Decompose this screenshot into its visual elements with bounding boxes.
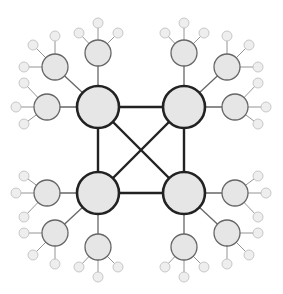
leaf-node bbox=[74, 262, 84, 272]
leaf-node bbox=[19, 212, 29, 222]
leaf-node bbox=[113, 262, 123, 272]
leaf-node bbox=[199, 262, 209, 272]
leaf-node bbox=[28, 40, 38, 50]
leaf-node bbox=[11, 188, 21, 198]
leaf-node bbox=[253, 62, 263, 72]
leaf-node bbox=[28, 250, 38, 260]
satellite-node bbox=[222, 180, 248, 206]
leaf-node bbox=[160, 28, 170, 38]
leaf-node bbox=[11, 102, 21, 112]
hub-node bbox=[77, 172, 119, 214]
leaf-node bbox=[19, 228, 29, 238]
satellite-node bbox=[214, 220, 240, 246]
satellite-node bbox=[34, 94, 60, 120]
hub-node bbox=[77, 86, 119, 128]
leaf-node bbox=[244, 250, 254, 260]
leaf-node bbox=[19, 78, 29, 88]
leaf-node bbox=[253, 78, 263, 88]
leaf-node bbox=[253, 171, 263, 181]
satellite-node bbox=[34, 180, 60, 206]
leaf-node bbox=[222, 31, 232, 41]
hub-node bbox=[163, 172, 205, 214]
satellite-node bbox=[171, 40, 197, 66]
leaf-node bbox=[93, 272, 103, 282]
leaf-node bbox=[253, 119, 263, 129]
leaf-node bbox=[113, 28, 123, 38]
leaf-node bbox=[253, 228, 263, 238]
satellite-node bbox=[85, 40, 111, 66]
leaf-node bbox=[74, 28, 84, 38]
leaf-node bbox=[19, 62, 29, 72]
satellite-node bbox=[222, 94, 248, 120]
satellite-node bbox=[85, 234, 111, 260]
satellite-node bbox=[42, 54, 68, 80]
leaf-node bbox=[50, 31, 60, 41]
leaf-node bbox=[160, 262, 170, 272]
leaf-node bbox=[261, 188, 271, 198]
leaf-node bbox=[179, 272, 189, 282]
leaf-node bbox=[261, 102, 271, 112]
satellite-node bbox=[42, 220, 68, 246]
leaf-node bbox=[19, 119, 29, 129]
leaf-node bbox=[244, 40, 254, 50]
leaf-node bbox=[253, 212, 263, 222]
hub-node bbox=[163, 86, 205, 128]
leaf-node bbox=[199, 28, 209, 38]
leaf-node bbox=[93, 18, 103, 28]
leaf-node bbox=[222, 259, 232, 269]
satellite-node bbox=[214, 54, 240, 80]
leaf-node bbox=[179, 18, 189, 28]
leaf-node bbox=[19, 171, 29, 181]
leaf-node bbox=[50, 259, 60, 269]
network-diagram bbox=[0, 0, 283, 294]
satellite-node bbox=[171, 234, 197, 260]
